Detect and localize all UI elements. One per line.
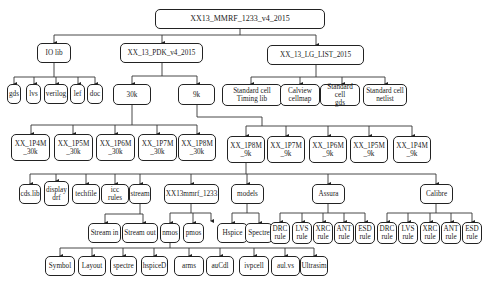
node-lglist: XX_13_LG_LIST_2015 [267, 45, 364, 65]
node-cdslib: cds.lib [19, 184, 41, 204]
node-xx13mmrf: XX13mmrf_1233 [164, 184, 219, 204]
node-ivpcell: ivpcell [239, 256, 269, 276]
node-p1p4m9: XX_1P4M _9k [393, 136, 431, 163]
node-streamin: Stream in [88, 223, 121, 243]
node-symbol: Symbol [45, 256, 75, 276]
node-calview: Calview cellmap [280, 84, 320, 106]
node-nmos: nmos [160, 223, 180, 243]
node-pmos: pmos [183, 223, 204, 243]
node-assura_esd: ESD rule [355, 222, 375, 244]
node-calibre_esd: ESD rule [462, 222, 482, 244]
node-lvs: lvs [26, 84, 41, 104]
node-lef: lef [70, 84, 85, 104]
node-models: models [231, 184, 264, 204]
node-root: XX13_MMRF_1233_v4_2015 [155, 9, 325, 29]
node-stdtiming: Standard cell Timing lib [222, 84, 282, 106]
node-p1p8m30: XX_1P8M _30k [178, 134, 216, 161]
node-streamout: Stream out [122, 223, 158, 243]
node-spectre2: spectre [110, 256, 137, 276]
node-stream: stream [129, 184, 151, 204]
node-techfile: techfile [72, 184, 100, 204]
node-p1p6m9: XX_1P6M _9k [309, 136, 347, 163]
node-assura_lvs: LVS rule [292, 222, 312, 244]
node-p1p7m30: XX_1P7M _30k [138, 134, 177, 161]
node-assura_xrc: XRC rule [313, 222, 333, 244]
pdk-hierarchy-diagram: XX13_MMRF_1233_v4_2015IO libXX_13_PDK_v4… [0, 0, 483, 286]
node-assura: Assura [312, 184, 345, 204]
node-layout: Layout [78, 256, 106, 276]
node-ultrasim: Ultrasim [300, 256, 328, 276]
node-displaydrf: display drf [44, 181, 69, 206]
node-p1p5m9: XX_1P5M _9k [350, 136, 388, 163]
node-hspiceD: hspiceD [141, 256, 168, 276]
node-pdk: XX_13_PDK_v4_2015 [120, 43, 203, 63]
node-p1p8m9: XX_1P8M _9k [227, 136, 265, 163]
node-gds: gds [7, 84, 21, 104]
node-k30: 30k [113, 84, 151, 105]
node-calibre_xrc: XRC rule [420, 222, 440, 244]
node-verilog: verilog [44, 84, 68, 104]
node-doc: doc [87, 84, 103, 104]
node-spectre: Spectre [245, 223, 273, 243]
node-calibre_drc: DRC rule [377, 222, 397, 244]
node-p1p7m9: XX_1P7M _9k [267, 136, 305, 163]
node-p1p6m30: XX_1P6M _30k [96, 134, 135, 161]
node-iolib: IO lib [37, 43, 71, 63]
node-assura_drc: DRC rule [270, 222, 290, 244]
node-k9: 9k [178, 84, 215, 105]
node-p1p4m30: XX_1P4M _30k [11, 134, 50, 161]
node-calibre: Calibre [420, 184, 453, 204]
node-calibre_ant: ANT rule [441, 222, 461, 244]
node-p1p5m30: XX_1P5M _30k [54, 134, 93, 161]
node-arms: arms [174, 256, 204, 276]
node-aulvs: aul.vs [271, 256, 300, 276]
node-aucdl: auCdl [206, 256, 234, 276]
node-hspice: Hspice [217, 223, 248, 243]
node-iccrules: icc rules [101, 184, 129, 204]
node-stdgds: Standard cell gds [320, 84, 360, 106]
node-assura_ant: ANT rule [334, 222, 354, 244]
node-calibre_lvs: LVS rule [398, 222, 418, 244]
node-stdnetlist: Standard cell netlist [363, 84, 407, 106]
